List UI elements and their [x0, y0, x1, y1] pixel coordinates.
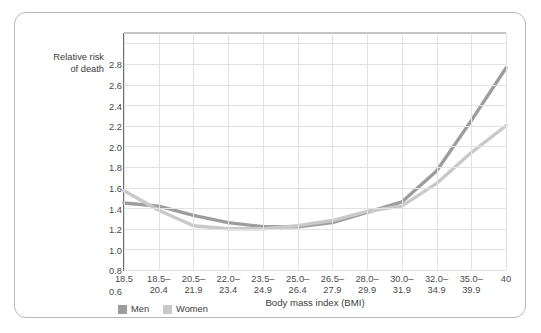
- legend-swatch-icon: [118, 305, 127, 314]
- series-line-men: [124, 68, 506, 227]
- y-tick-label: 1.2: [98, 225, 122, 235]
- y-tick-label: 0.6: [98, 287, 122, 297]
- gridline-vertical: [332, 33, 333, 270]
- gridline-horizontal: [124, 43, 506, 44]
- plot-area: [124, 33, 506, 270]
- gridline-vertical: [367, 33, 368, 270]
- chart-legend: MenWomen: [118, 304, 208, 314]
- gridline-vertical: [263, 33, 264, 270]
- gridline-vertical: [193, 33, 194, 270]
- y-tick-label: 1.0: [98, 246, 122, 256]
- y-tick-label: 2.0: [98, 143, 122, 153]
- y-tick-label: 2.8: [98, 60, 122, 70]
- legend-item[interactable]: Men: [118, 304, 149, 314]
- gridline-horizontal: [124, 126, 506, 127]
- gridline-vertical: [124, 33, 125, 270]
- y-tick-label: 2.2: [98, 122, 122, 132]
- legend-item[interactable]: Women: [163, 304, 208, 314]
- gridline-horizontal: [124, 167, 506, 168]
- gridline-vertical: [471, 33, 472, 270]
- chart-container: Relative risk of death 0.60.81.01.21.41.…: [0, 0, 541, 333]
- y-tick-label: 2.6: [98, 81, 122, 91]
- gridline-horizontal: [124, 249, 506, 250]
- gridline-horizontal: [124, 270, 506, 271]
- gridline-horizontal: [124, 208, 506, 209]
- y-tick-label: 1.4: [98, 205, 122, 215]
- y-axis-tick-labels: 0.60.81.01.21.41.61.82.02.22.42.62.8: [98, 44, 122, 270]
- y-axis-title: Relative risk of death: [18, 52, 104, 75]
- gridline-horizontal: [124, 229, 506, 230]
- legend-label: Men: [131, 304, 149, 314]
- gridline-vertical: [506, 33, 507, 270]
- x-tick-label: 40: [479, 274, 533, 285]
- series-lines: [124, 33, 506, 270]
- gridline-vertical: [228, 33, 229, 270]
- gridline-vertical: [298, 33, 299, 270]
- gridline-vertical: [437, 33, 438, 270]
- gridline-horizontal: [124, 146, 506, 147]
- legend-swatch-icon: [163, 305, 172, 314]
- gridline-horizontal: [124, 105, 506, 106]
- y-tick-label: 1.8: [98, 163, 122, 173]
- y-tick-label: 2.4: [98, 102, 122, 112]
- gridline-vertical: [159, 33, 160, 270]
- gridline-vertical: [402, 33, 403, 270]
- legend-label: Women: [176, 304, 208, 314]
- gridline-horizontal: [124, 64, 506, 65]
- y-tick-label: 1.6: [98, 184, 122, 194]
- gridline-horizontal: [124, 85, 506, 86]
- gridline-horizontal: [124, 188, 506, 189]
